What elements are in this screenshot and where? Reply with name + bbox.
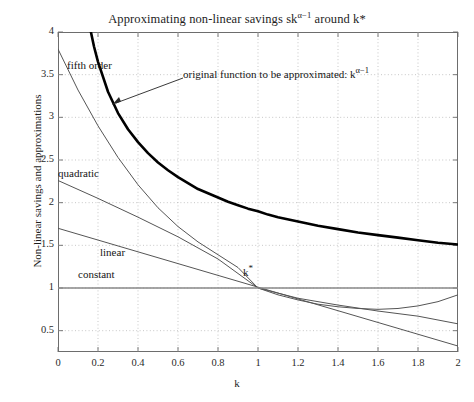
x-tick-label: 0.6 — [171, 357, 184, 368]
x-tick-label: 0.8 — [211, 357, 224, 368]
y-tick-label: 2 — [4, 196, 54, 207]
kstar-superscript: * — [249, 263, 254, 273]
chart-title-main: Approximating non-linear savings sk — [108, 12, 297, 26]
annotation-exponent: α−1 — [356, 65, 370, 75]
x-tick-label: 1 — [255, 357, 260, 368]
y-tick-label: 3.5 — [4, 68, 54, 79]
y-tick-label: 2.5 — [4, 153, 54, 164]
series-label-linear: linear — [100, 246, 125, 258]
series-label-constant: constant — [78, 268, 115, 280]
x-tick-label: 1.6 — [371, 357, 384, 368]
series-label-fifth-order: fifth order — [67, 59, 112, 71]
original-function-annotation: original function to be approximated: kα… — [183, 65, 369, 80]
y-tick-label: 0.5 — [4, 324, 54, 335]
chart-title-exponent: α−1 — [297, 10, 311, 20]
kstar-marker-label: k* — [243, 263, 253, 278]
y-tick-label: 1.5 — [4, 238, 54, 249]
annotation-text: original function to be approximated: k — [183, 68, 356, 80]
y-tick-label: 4 — [4, 25, 54, 36]
chart-figure: Approximating non-linear savings skα−1 a… — [0, 0, 474, 402]
x-tick-label: 1.2 — [291, 357, 304, 368]
x-axis-label: k — [0, 377, 474, 389]
y-tick-label: 3 — [4, 110, 54, 121]
chart-title: Approximating non-linear savings skα−1 a… — [0, 10, 474, 27]
series-label-quadratic: quadratic — [58, 167, 99, 179]
x-tick-label: 2 — [455, 357, 460, 368]
x-tick-label: 0.2 — [91, 357, 104, 368]
y-axis-label: Non-linear savings and approximations — [31, 56, 43, 306]
x-tick-label: 0.4 — [131, 357, 144, 368]
x-tick-label: 1.4 — [331, 357, 344, 368]
y-tick-label: 1 — [4, 281, 54, 292]
x-tick-label: 1.8 — [411, 357, 424, 368]
x-tick-label: 0 — [55, 357, 60, 368]
plot-area — [58, 32, 458, 352]
chart-title-tail: around k* — [311, 12, 365, 26]
